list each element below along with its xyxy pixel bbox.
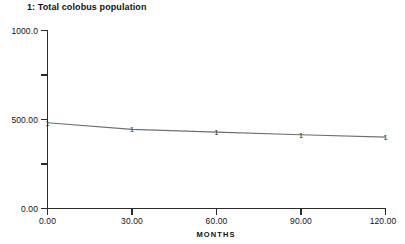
x-axis-label-60: 60.00 <box>206 216 228 226</box>
data-point-marker: 1 <box>45 119 50 128</box>
x-axis-label-90: 90.00 <box>290 216 312 226</box>
x-axis-label-0: 0.00 <box>39 216 56 226</box>
plot-area: 1000.0 500.00 0.00 0.00 30.00 60.00 90.0… <box>0 0 405 244</box>
data-point-marker: 1 <box>299 131 304 140</box>
y-axis-label-500: 500.00 <box>11 115 38 125</box>
x-axis-title: MONTHS <box>196 230 235 239</box>
y-axis-label-0: 0.00 <box>21 204 38 214</box>
data-point-marker: 1 <box>130 125 135 134</box>
data-point-marker: 1 <box>214 128 219 137</box>
x-axis-label-120: 120.00 <box>370 216 397 226</box>
x-axis-label-30: 30.00 <box>121 216 143 226</box>
data-point-marker: 1 <box>383 133 388 142</box>
chart-canvas: 1: Total colobus population 1000.0 500.0… <box>0 0 405 244</box>
y-axis-label-1000: 1000.0 <box>11 26 38 36</box>
series-markers: 11111 <box>45 119 388 142</box>
